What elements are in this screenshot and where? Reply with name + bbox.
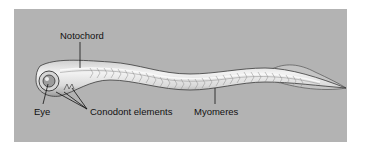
conodont-leader-1: [64, 92, 87, 109]
notochord-label: Notochord: [60, 30, 104, 41]
myomeres-label: Myomeres: [194, 106, 238, 117]
eye-label: Eye: [34, 106, 50, 117]
conodont-leader-3: [56, 92, 87, 109]
conodont-leader-2: [72, 88, 87, 109]
eye: [43, 75, 55, 87]
conodont-elements-label: Conodont elements: [90, 106, 172, 117]
conodont-illustration: [0, 0, 367, 148]
